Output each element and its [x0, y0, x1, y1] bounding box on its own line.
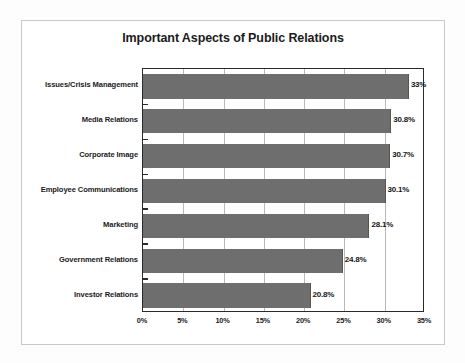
x-tick-label: 5%: [177, 316, 187, 325]
category-tick: [143, 208, 148, 209]
x-tick-label: 15%: [256, 316, 270, 325]
x-tick-label: 20%: [296, 316, 310, 325]
bar[interactable]: [143, 179, 386, 203]
plot-area: [142, 68, 424, 312]
bar-row: [143, 74, 423, 98]
x-tick-label: 10%: [215, 316, 229, 325]
category-label: Employee Communications: [8, 185, 138, 194]
chart-figure: Important Aspects of Public Relations Is…: [0, 0, 465, 363]
chart-title: Important Aspects of Public Relations: [21, 31, 445, 45]
bar[interactable]: [143, 144, 390, 168]
bar-value-label: 30.7%: [392, 150, 414, 159]
category-tick: [143, 104, 148, 105]
bar-value-label: 24.8%: [345, 255, 367, 264]
category-tick: [143, 243, 148, 244]
category-tick: [143, 174, 148, 175]
bar[interactable]: [143, 283, 311, 307]
category-tick: [143, 278, 148, 279]
x-tick-label: 0%: [137, 316, 147, 325]
category-label: Government Relations: [8, 255, 138, 264]
bar[interactable]: [143, 214, 369, 238]
bar-value-label: 30.8%: [393, 115, 415, 124]
bar-value-label: 20.8%: [313, 290, 335, 299]
category-label: Marketing: [8, 220, 138, 229]
category-axis-labels: Issues/Crisis ManagementMedia RelationsC…: [6, 68, 138, 312]
bar-value-label: 30.1%: [388, 185, 410, 194]
category-label: Investor Relations: [8, 290, 138, 299]
bar-value-label: 28.1%: [371, 220, 393, 229]
category-label: Media Relations: [8, 115, 138, 124]
bar-row: [143, 109, 423, 133]
x-axis-tick-labels: 0%5%10%15%20%25%30%35%: [142, 316, 424, 330]
bar[interactable]: [143, 249, 343, 273]
bar-row: [143, 144, 423, 168]
x-tick-label: 30%: [377, 316, 391, 325]
bar[interactable]: [143, 74, 409, 98]
x-tick-label: 35%: [417, 316, 431, 325]
bar-row: [143, 283, 423, 307]
x-tick-label: 25%: [336, 316, 350, 325]
category-label: Corporate Image: [8, 150, 138, 159]
category-tick: [143, 139, 148, 140]
bar-row: [143, 249, 423, 273]
bar[interactable]: [143, 109, 391, 133]
bar-row: [143, 179, 423, 203]
category-label: Issues/Crisis Management: [8, 80, 138, 89]
bar-value-label: 33%: [411, 80, 426, 89]
